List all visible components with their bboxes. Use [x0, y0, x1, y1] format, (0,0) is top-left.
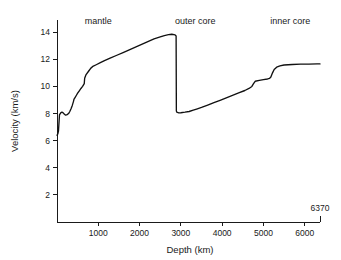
- x-tick-label: 2000: [130, 228, 149, 238]
- x-tick-label: 6000: [295, 228, 314, 238]
- y-tick-label: 6: [45, 136, 50, 146]
- x-axis-ticks: 100020003000400050006000: [89, 222, 315, 238]
- seismic-velocity-chart: 2468101214 100020003000400050006000 6370…: [0, 0, 341, 260]
- velocity-curve: [57, 34, 320, 135]
- x-tick-label: 5000: [254, 228, 273, 238]
- annotation-outer-core: outer core: [175, 16, 216, 26]
- y-tick-label: 14: [41, 27, 51, 37]
- annotation-mantle: mantle: [85, 16, 112, 26]
- x-tick-label: 4000: [213, 228, 232, 238]
- velocity-depth-figure: 2468101214 100020003000400050006000 6370…: [0, 0, 341, 260]
- y-tick-label: 4: [45, 163, 50, 173]
- y-axis-ticks: 2468101214: [41, 27, 57, 200]
- x-axis-title: Depth (km): [167, 244, 214, 255]
- y-tick-label: 2: [45, 190, 50, 200]
- y-tick-label: 8: [45, 109, 50, 119]
- endpoint-label: 6370: [311, 203, 330, 213]
- x-tick-label: 1000: [89, 228, 108, 238]
- y-tick-label: 12: [41, 54, 51, 64]
- y-tick-label: 10: [41, 81, 51, 91]
- x-tick-label: 3000: [171, 228, 190, 238]
- y-axis-title: Velocity (km/s): [9, 90, 20, 152]
- annotation-inner-core: inner core: [270, 16, 310, 26]
